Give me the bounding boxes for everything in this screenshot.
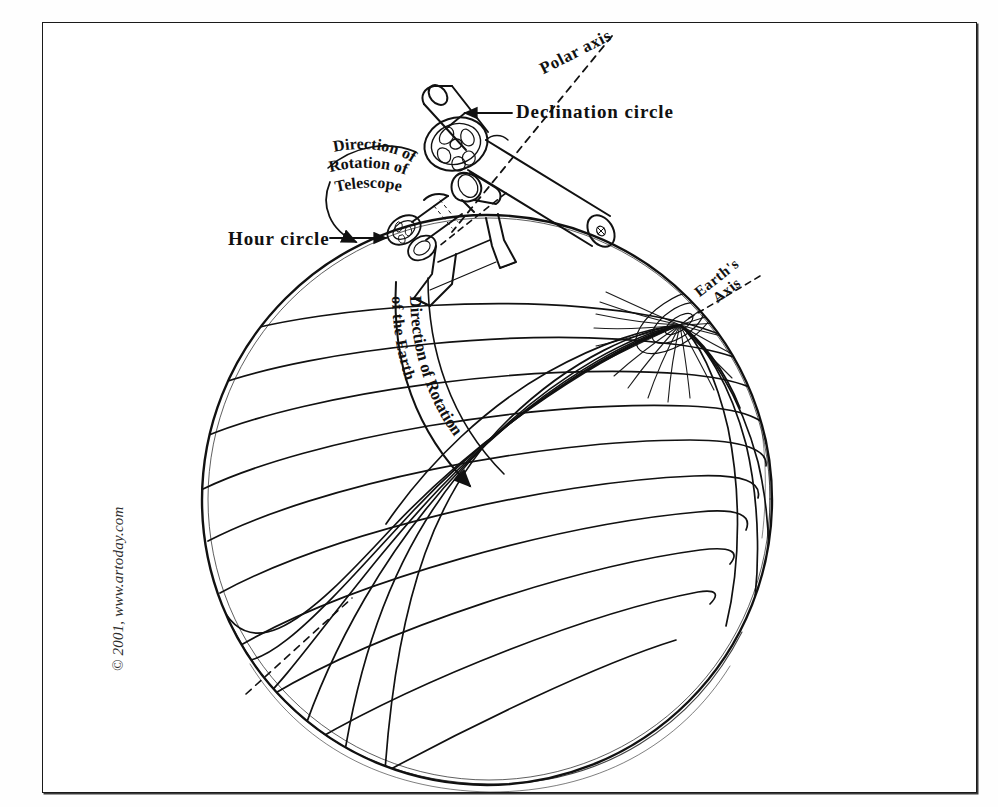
plate-frame xyxy=(42,22,977,793)
copyright-strip: © 2001, www.artoday.com xyxy=(107,431,129,671)
label-hour-circle: Hour circle xyxy=(228,228,330,250)
label-declination-circle: Declination circle xyxy=(516,101,674,123)
copyright-text: © 2001, www.artoday.com xyxy=(110,507,127,671)
illustration-stage: © 2001, www.artoday.com xyxy=(0,0,998,807)
